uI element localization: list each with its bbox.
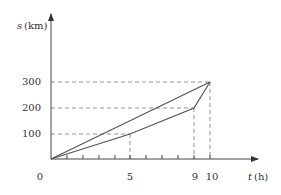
x-tick-label-10: 10 [206,171,219,182]
svg-text:t: t [248,171,253,182]
distance-time-graph: 0 5 9 10 100 200 300 s (km) t (h) [0,0,281,195]
y-tick-label-100: 100 [22,128,41,139]
x-ticks [67,155,210,159]
series-straight-line [51,82,210,159]
y-tick-label-300: 300 [22,76,41,87]
svg-text:(h): (h) [254,171,268,182]
y-axis-label: s (km) [17,20,47,31]
svg-text:(km): (km) [24,20,47,31]
y-tick-label-200: 200 [22,102,41,113]
origin-label: 0 [37,171,43,182]
x-tick-label-5: 5 [127,171,133,182]
x-axis-label: t (h) [248,171,268,182]
x-tick-label-9: 9 [192,171,198,182]
svg-text:s: s [17,20,22,31]
